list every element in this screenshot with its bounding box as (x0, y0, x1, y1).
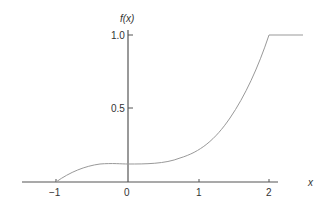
y-tick-label-05: 0.5 (111, 103, 125, 114)
y-tick-label-10: 1.0 (111, 30, 125, 41)
chart: f(x) x −1 0 1 2 1.0 0.5 (0, 0, 326, 207)
x-axis-label: x (307, 177, 314, 188)
x-tick-label-0: 0 (124, 187, 130, 198)
x-tick-label-2: 2 (266, 187, 272, 198)
x-tick-label-1: 1 (196, 187, 202, 198)
x-tick-label-m1: −1 (49, 187, 61, 198)
y-axis-label: f(x) (120, 13, 134, 24)
function-curve (56, 35, 303, 182)
